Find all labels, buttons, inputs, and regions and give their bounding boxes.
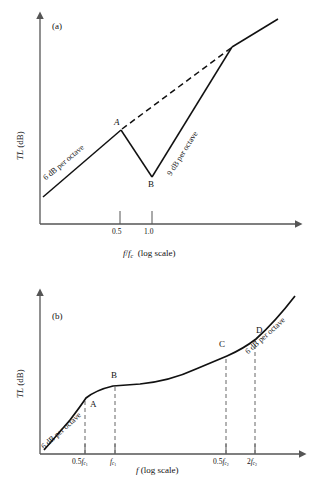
figure-svg [0,0,321,490]
panel-a-tick-label-1: 1.0 [144,228,153,236]
panel-a-tick-label-0: 0.5 [112,228,121,236]
panel-a-x-axis-title-fc-sub: c [131,253,134,259]
panel-b-tick-label-1-sub2: 1 [114,463,116,467]
panel-b-tick-label-3: 2fc2 [247,458,257,468]
panel-b-point-b-label: B [111,371,117,380]
panel-b-x-axis-title: f (log scale) [136,466,179,475]
panel-b-point-d-label: D [256,326,263,335]
panel-b-tick-label-3-sub2: 2 [255,463,257,467]
panel-a-series-coincidence-dip [121,130,152,177]
panel-b-curves [44,296,295,450]
panel-b-label: (b) [52,312,63,321]
figure-root: (a) TL (dB) 0.5 1.0 f/fc (log scale) 6 d… [0,0,321,490]
panel-b-tick-label-2: 0.5fc2 [213,458,229,468]
panel-b-x-axis-title-rest: (log scale) [139,465,179,475]
panel-a-point-b-label: B [148,180,154,189]
panel-a-curves [43,19,278,197]
panel-a-series-upper-6db-segment [232,19,278,47]
panel-b-axes [40,295,300,454]
panel-b-droplines [85,340,255,454]
panel-a-series-stiffness-9db-segment [152,47,232,177]
panel-b-tick-label-0: 0.5fc1 [72,458,88,468]
panel-b-tick-label-1: fc1 [110,458,116,468]
panel-b-tick-label-2-prefix: 0.5 [213,457,222,466]
panel-b-point-c-label: C [219,340,225,349]
panel-a-x-axis-title: f/fc (log scale) [123,249,176,259]
panel-b-tick-label-0-prefix: 0.5 [72,457,81,466]
panel-a-y-axis-title-italic: TL [15,150,25,160]
panel-a-label: (a) [52,22,62,31]
panel-a-series-extrapolated-mass-law [122,48,231,129]
panel-a-x-axis-title-suffix: (log scale) [138,248,176,258]
panel-a-axes [40,18,296,224]
panel-b-tick-label-0-sub2: 1 [86,463,88,467]
panel-b-point-a-label: A [90,400,97,409]
panel-b-y-axis-title-rest: (dB) [15,369,25,388]
panel-b-y-axis-title-italic: TL [15,388,25,398]
panel-a-point-a-label: A [114,118,120,127]
panel-b-tick-label-2-sub2: 2 [227,463,229,467]
panel-b-y-axis-title: TL (dB) [16,369,25,398]
panel-b-series-transmission-loss-curve [44,296,295,450]
panel-a-y-axis-title-rest: (dB) [15,131,25,150]
panel-a-y-axis-title: TL (dB) [16,131,25,160]
